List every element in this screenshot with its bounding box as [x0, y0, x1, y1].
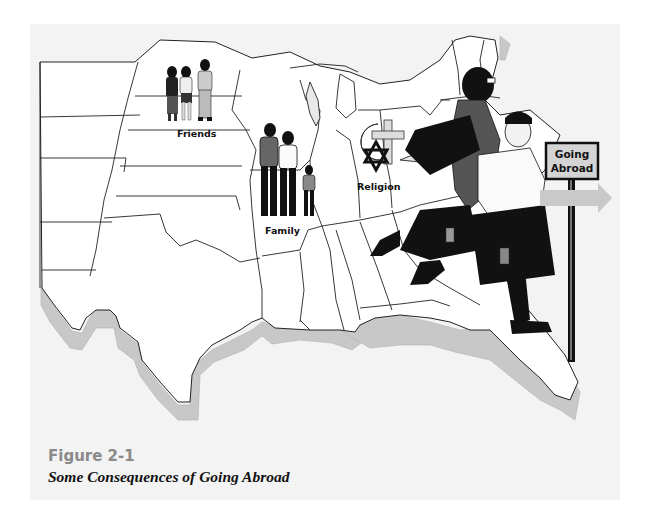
figure-caption: Figure 2-1 Some Consequences of Going Ab…	[48, 447, 289, 487]
friends-figures	[166, 59, 212, 121]
label-friends: Friends	[177, 128, 217, 139]
arrow-right-icon	[540, 183, 612, 213]
sign-text-line2: Abroad	[551, 162, 594, 174]
sign-text-line1: Going	[555, 148, 589, 160]
label-religion: Religion	[357, 181, 401, 192]
figure-title: Some Consequences of Going Abroad	[48, 467, 289, 487]
label-family: Family	[265, 225, 301, 236]
figure-number: Figure 2-1	[48, 447, 289, 465]
us-map-illustration: Friends Family Religion	[0, 0, 647, 518]
